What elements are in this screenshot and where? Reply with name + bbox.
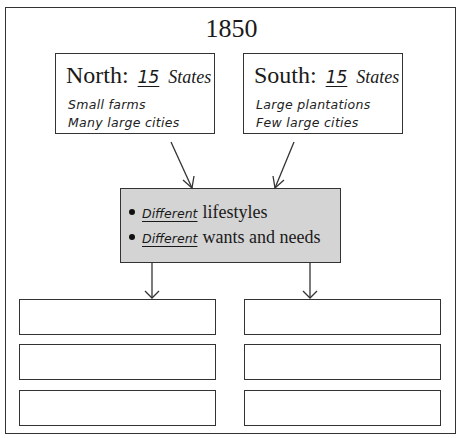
south-states-unit: States [356,67,399,87]
diagram-title: 1850 [0,14,463,44]
right-outcome-box-3[interactable] [244,390,441,426]
south-state-count: 15 [326,67,348,87]
north-box: North: 15 States Small farms Many large … [55,53,215,134]
difference-text: lifestyles [202,202,267,222]
difference-item: Differentlifestyles [129,202,267,223]
north-states-unit: States [168,67,211,87]
differences-box: Differentlifestyles Differentwants and n… [120,188,341,263]
south-box: South: 15 States Large plantations Few l… [243,53,403,134]
south-heading: South: 15 States [254,62,399,89]
difference-text: wants and needs [202,227,320,247]
south-note: Few large cities [256,115,359,130]
south-label: South: [254,62,317,88]
north-state-count: 15 [138,67,160,87]
north-note: Many large cities [68,115,180,130]
north-label: North: [66,62,129,88]
right-outcome-box-2[interactable] [244,344,441,380]
bullet-icon [129,234,135,240]
north-heading: North: 15 States [66,62,211,89]
difference-item: Differentwants and needs [129,227,320,248]
left-outcome-box-3[interactable] [19,390,216,426]
right-outcome-box-1[interactable] [244,299,441,335]
north-note: Small farms [68,97,146,112]
left-outcome-box-2[interactable] [19,344,216,380]
left-outcome-box-1[interactable] [19,299,216,335]
handwritten-answer: Different [142,206,197,221]
handwritten-answer: Different [142,231,197,246]
bullet-icon [129,209,135,215]
south-note: Large plantations [256,97,370,112]
